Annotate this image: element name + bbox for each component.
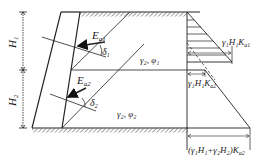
- height-label-h1: H1: [6, 37, 20, 49]
- pressure-label-layer1-bottom: γ₁H₁Ka1: [222, 37, 250, 48]
- force-label-ea2: Ea2: [76, 74, 91, 88]
- retaining-wall-earth-pressure-diagram: H1 H2 Ea1 δ1 Ea2 δ2 γ₂, φ₁ γ₂, φ₂: [0, 0, 263, 162]
- height-label-h2: H2: [6, 94, 20, 107]
- pressure-label-layer2-bottom: (γ₁H₁+γ₂H₂)Ka2: [188, 145, 245, 156]
- layer2-properties: γ₂, φ₂: [117, 109, 136, 119]
- angle-label-delta2: δ2: [90, 97, 98, 109]
- angle-label-delta1: δ1: [102, 46, 110, 58]
- ground-surface-bottom: [32, 128, 188, 133]
- height-dimension: [19, 12, 27, 128]
- ground-surface-top: [80, 12, 200, 17]
- layer1-properties: γ₂, φ₁: [140, 55, 159, 65]
- force-label-ea1: Ea1: [91, 29, 106, 43]
